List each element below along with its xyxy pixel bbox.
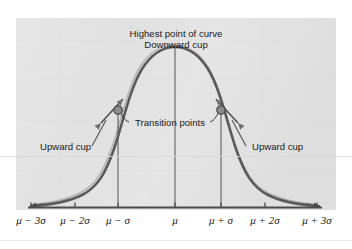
normal-distribution-figure: Highest point of curve Downward cup Tran…: [0, 0, 352, 249]
tick-label-mu-plus-sigma: μ + σ: [208, 214, 233, 226]
highest-point-label: Highest point of curve: [130, 28, 223, 39]
upward-cup-right-label: Upward cup: [252, 141, 303, 152]
upward-cup-left-label: Upward cup: [40, 141, 91, 152]
transition-point-right: [217, 106, 225, 114]
tick-label-mu: μ: [171, 214, 178, 226]
tick-label-mu-minus-2sigma: μ − 2σ: [59, 214, 90, 226]
transition-point-left: [114, 106, 122, 114]
tick-label-mu-plus-3sigma: μ + 3σ: [301, 214, 332, 226]
downward-cup-label: Downward cup: [144, 39, 207, 50]
transition-points-label: Transition points: [135, 117, 205, 128]
tick-label-mu-minus-sigma: μ − σ: [105, 214, 130, 226]
tick-label-mu-minus-3sigma: μ − 3σ: [15, 214, 46, 226]
figure-canvas: Highest point of curve Downward cup Tran…: [0, 0, 352, 249]
tick-label-mu-plus-2sigma: μ + 2σ: [249, 214, 280, 226]
